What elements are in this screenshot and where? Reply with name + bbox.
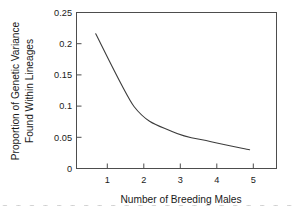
y-axis-tick-labels: 0 0.05 0.1 0.15 0.2 0.25 bbox=[54, 8, 72, 174]
x-axis-ticks bbox=[107, 164, 253, 169]
x-tick-label-4: 4 bbox=[214, 175, 219, 185]
line-chart: 0 0.05 0.1 0.15 0.2 0.25 1 2 3 4 5 Numbe… bbox=[0, 0, 292, 212]
x-tick-label-3: 3 bbox=[178, 175, 183, 185]
y-axis-ticks bbox=[77, 13, 82, 169]
plot-frame bbox=[77, 13, 277, 169]
y-tick-label-015: 0.15 bbox=[54, 70, 72, 80]
x-tick-label-5: 5 bbox=[251, 175, 256, 185]
x-tick-label-1: 1 bbox=[105, 175, 110, 185]
y-axis-title-line1: Proportion of Genetic Variance bbox=[10, 21, 21, 160]
y-tick-label-02: 0.2 bbox=[59, 39, 72, 49]
x-axis-tick-labels: 1 2 3 4 5 bbox=[105, 175, 256, 185]
y-tick-label-0: 0 bbox=[67, 164, 72, 174]
figure-container: 0 0.05 0.1 0.15 0.2 0.25 1 2 3 4 5 Numbe… bbox=[0, 0, 292, 212]
y-tick-label-01: 0.1 bbox=[59, 101, 72, 111]
y-tick-label-005: 0.05 bbox=[54, 133, 72, 143]
data-series-line bbox=[96, 34, 250, 150]
y-axis-title-line2: Found Within Lineages bbox=[24, 39, 35, 143]
x-tick-label-2: 2 bbox=[141, 175, 146, 185]
x-axis-title: Number of Breeding Males bbox=[120, 194, 241, 205]
y-tick-label-025: 0.25 bbox=[54, 8, 72, 18]
y-axis-title: Proportion of Genetic Variance Found Wit… bbox=[10, 21, 35, 160]
